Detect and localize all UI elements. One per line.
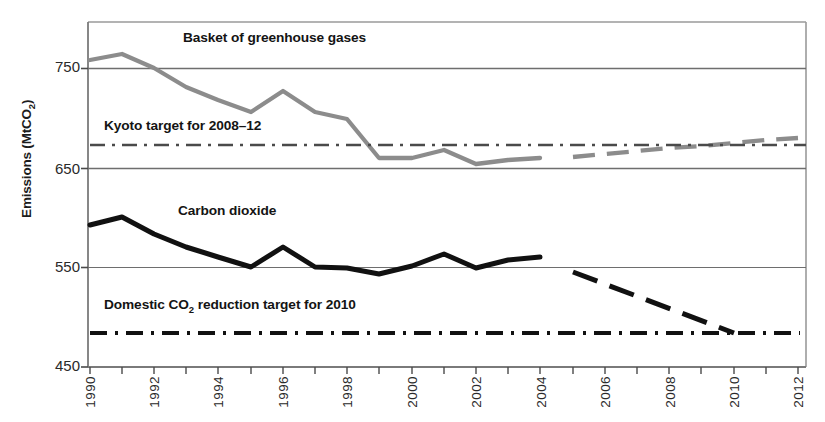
annotation-domestic-target-pre: Domestic CO <box>104 297 189 312</box>
annotation-domestic-target: Domestic CO2 reduction target for 2010 <box>104 297 356 315</box>
y-axis-ticks <box>81 69 88 368</box>
plot-frame <box>88 22 806 367</box>
annotation-kyoto-target: Kyoto target for 2008–12 <box>104 118 261 133</box>
annotation-carbon-dioxide: Carbon dioxide <box>178 203 276 218</box>
series-line-carbon-dioxide-projection <box>573 272 734 333</box>
chart-figure: Emissions (MtCO2) 750 650 550 450 1990 1… <box>0 0 825 422</box>
annotation-domestic-target-post: reduction target for 2010 <box>194 297 356 312</box>
series-line-greenhouse-gases <box>90 54 540 164</box>
series-line-carbon-dioxide <box>90 217 540 274</box>
series-line-greenhouse-gases-projection <box>573 138 798 157</box>
x-axis-ticks <box>90 367 798 374</box>
gridlines <box>88 69 806 268</box>
annotation-greenhouse-gases: Basket of greenhouse gases <box>183 30 366 45</box>
chart-plot-area <box>0 0 825 422</box>
